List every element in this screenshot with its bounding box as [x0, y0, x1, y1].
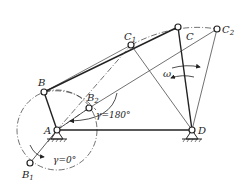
joint-B1 [27, 160, 33, 166]
joint-B2 [86, 105, 92, 111]
coupler-position-C1 [44, 45, 131, 92]
rocker-link-CD [178, 27, 192, 130]
joint-D [189, 127, 195, 133]
joint-C [175, 24, 181, 30]
joint-B [41, 89, 47, 95]
four-bar-linkage-diagram: A B B1 B2 C C1 C2 D γ=180° γ=0° ω [0, 0, 246, 184]
joint-C2 [214, 26, 220, 32]
rocker-position-C2D [192, 29, 217, 130]
label-C: C [186, 31, 194, 42]
label-A: A [43, 125, 51, 136]
gamma-0-arc [30, 145, 44, 157]
label-B1: B1 [21, 169, 34, 182]
gamma-180-label: γ=180° [96, 110, 131, 120]
coupler-position-B2C2 [89, 29, 217, 108]
label-D: D [197, 125, 206, 136]
label-B: B [37, 77, 45, 88]
label-B2: B2 [86, 92, 99, 105]
joint-A [54, 127, 60, 133]
omega-arrow-upper [172, 66, 200, 68]
rocker-arc [131, 27, 217, 45]
gamma-0-label: γ=0° [53, 155, 76, 165]
label-C2: C2 [222, 24, 235, 37]
omega-label: ω [163, 68, 171, 79]
omega-arrow-lower [171, 76, 194, 78]
